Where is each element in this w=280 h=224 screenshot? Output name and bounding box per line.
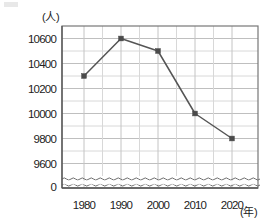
plot-area [0,0,280,224]
line-chart: (人) (年) 96009800100001020010400106000 19… [0,0,280,224]
